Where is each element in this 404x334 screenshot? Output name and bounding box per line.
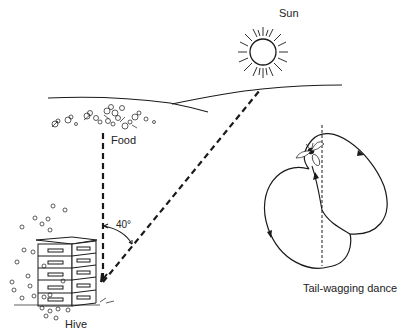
horizon-lines xyxy=(48,85,342,112)
food-label: Food xyxy=(111,134,136,146)
dance-label: Tail-wagging dance xyxy=(303,282,397,294)
sun-icon xyxy=(238,27,288,78)
direction-lines xyxy=(103,90,260,282)
sun-label: Sun xyxy=(279,7,299,19)
dancing-bee-icon xyxy=(296,142,324,167)
flower-patch-icon xyxy=(52,105,156,130)
hive-to-sun-line xyxy=(103,90,260,282)
waggle-dance-path xyxy=(264,125,387,268)
hive-label: Hive xyxy=(65,318,87,330)
angle-label: 40° xyxy=(116,219,131,230)
